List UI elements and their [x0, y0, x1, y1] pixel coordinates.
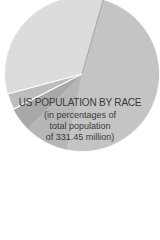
chart-subtitle-line-1: (in percentages of	[0, 110, 160, 120]
chart-subtitle-line-2: total population	[0, 121, 160, 131]
chart-subtitle-line-3: of 331.45 million)	[0, 132, 160, 142]
chart-title: US POPULATION BY RACE	[0, 97, 160, 108]
